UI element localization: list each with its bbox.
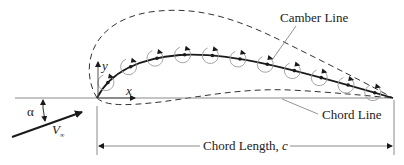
vortex-arrowhead xyxy=(321,69,327,74)
camber-point-dot xyxy=(106,81,110,85)
alpha-label: α xyxy=(27,104,34,119)
vortex-arrowhead xyxy=(240,50,246,55)
chord-length-label: Chord Length, c xyxy=(203,138,288,153)
vortex-arrowhead xyxy=(375,84,381,89)
camber-point-dot xyxy=(265,62,269,66)
camber-line-label: Camber Line xyxy=(280,10,348,25)
camber-point-dot xyxy=(346,83,350,87)
y-axis-label: y xyxy=(100,58,108,73)
camber-line xyxy=(97,55,393,98)
vortex-sheet xyxy=(98,46,381,101)
freestream-arrow xyxy=(12,112,82,137)
camber-point-dot xyxy=(183,53,187,57)
freestream-label: V∞ xyxy=(52,122,65,138)
camber-point-dot xyxy=(155,56,159,60)
camber-line-leader xyxy=(272,26,296,60)
alpha-arrow-down xyxy=(43,108,45,121)
camber-point-dot xyxy=(293,69,297,73)
vortex-arrowhead xyxy=(185,46,191,51)
vortex-arrowhead xyxy=(212,46,218,51)
thin-airfoil-diagram: y x V∞ α Camber Line Chord Line Chord Le… xyxy=(0,0,404,165)
camber-point-dot xyxy=(373,91,377,95)
camber-point-dot xyxy=(238,57,242,61)
chord-line-leader xyxy=(282,99,318,114)
vortex-arrowhead xyxy=(131,58,137,63)
camber-point-dot xyxy=(211,54,215,58)
x-axis-label: x xyxy=(125,83,132,98)
camber-point-dot xyxy=(319,76,323,80)
airfoil-lower-surface xyxy=(97,90,393,105)
chord-line-label: Chord Line xyxy=(322,107,382,122)
vortex-arrowhead xyxy=(348,76,354,81)
vortex-arrowhead xyxy=(157,49,163,54)
vortex-arrowhead xyxy=(294,61,300,66)
camber-point-dot xyxy=(129,65,133,69)
